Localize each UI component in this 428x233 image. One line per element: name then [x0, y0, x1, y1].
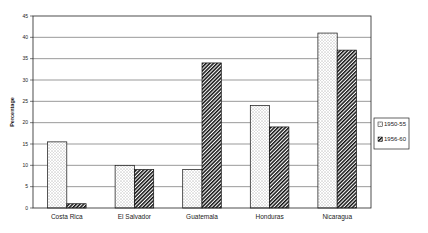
bar-1950-55 [183, 170, 202, 208]
x-axis-labels: Costa RicaEl SalvadorGuatemalaHondurasNi… [51, 213, 352, 221]
x-tick-label: Guatemala [186, 213, 218, 220]
y-tick-label: 20 [22, 119, 28, 125]
bar-1950-55 [318, 33, 337, 208]
y-axis-ticks: 051015202530354045 [22, 13, 33, 211]
y-tick-label: 45 [22, 13, 28, 19]
y-tick-label: 0 [25, 205, 28, 211]
y-tick-label: 25 [22, 98, 28, 104]
x-tick-label: El Salvador [118, 213, 152, 220]
bar-1956-60 [202, 63, 221, 208]
x-tick-label: Costa Rica [51, 213, 83, 220]
bar-1950-55 [250, 106, 269, 208]
legend: 1950-551956-60 [374, 118, 409, 149]
bar-1950-55 [115, 165, 134, 208]
legend-swatch [378, 137, 383, 142]
y-tick-label: 5 [25, 183, 28, 189]
y-tick-label: 35 [22, 55, 28, 61]
legend-swatch [378, 122, 383, 127]
y-tick-label: 40 [22, 34, 28, 40]
bar-1956-60 [337, 50, 356, 208]
legend-label: 1950-55 [384, 121, 407, 127]
bars [48, 33, 357, 208]
x-tick-label: Nicaragua [322, 213, 352, 221]
legend-label: 1956-60 [384, 136, 407, 142]
y-tick-label: 10 [22, 162, 28, 168]
x-tick-label: Honduras [256, 213, 285, 220]
bar-1956-60 [67, 204, 86, 208]
bar-1956-60 [134, 170, 153, 208]
bar-chart: 051015202530354045 Costa RicaEl Salvador… [0, 0, 428, 233]
bar-1950-55 [48, 142, 67, 208]
y-tick-label: 30 [22, 77, 28, 83]
y-tick-label: 15 [22, 141, 28, 147]
y-axis-label: Percentage [9, 97, 15, 127]
bar-1956-60 [270, 127, 289, 208]
